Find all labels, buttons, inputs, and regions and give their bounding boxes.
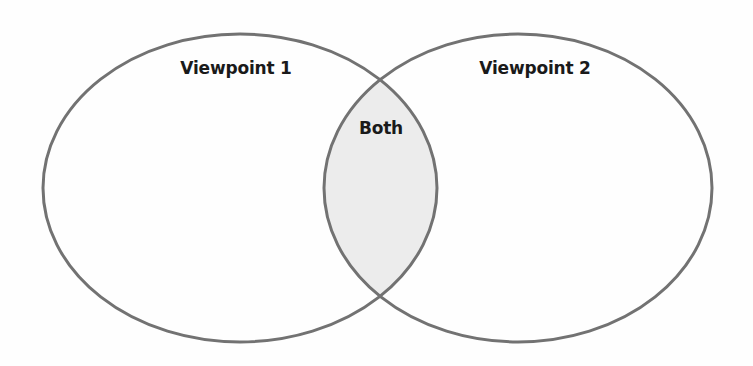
viewpoint-2-label: Viewpoint 2 xyxy=(479,58,590,78)
both-label: Both xyxy=(359,118,403,138)
viewpoint-1-label: Viewpoint 1 xyxy=(180,58,291,78)
venn-diagram-canvas: Viewpoint 1 Viewpoint 2 Both xyxy=(0,0,753,366)
venn-diagram: Viewpoint 1 Viewpoint 2 Both xyxy=(0,0,753,366)
